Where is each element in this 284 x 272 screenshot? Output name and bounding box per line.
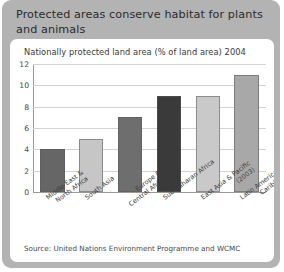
chart-subtitle: Nationally protected land area (% of lan… <box>24 47 246 57</box>
bar <box>118 117 142 192</box>
gridline <box>33 64 266 65</box>
bar <box>196 96 220 192</box>
y-tick-label: 12 <box>19 60 29 69</box>
y-tick-label: 6 <box>24 124 29 133</box>
gridline <box>33 128 266 129</box>
y-tick-label: 10 <box>19 81 29 90</box>
gridline <box>33 85 266 86</box>
gridline <box>33 107 266 108</box>
y-tick-label: 4 <box>24 145 29 154</box>
source-note: Source: United Nations Environment Progr… <box>24 244 240 253</box>
gridline <box>33 149 266 150</box>
y-tick-label: 8 <box>24 102 29 111</box>
y-tick-label: 0 <box>24 188 29 197</box>
card-title: Protected areas conserve habitat for pla… <box>16 7 268 37</box>
y-tick-label: 2 <box>24 166 29 175</box>
chart-panel: Nationally protected land area (% of lan… <box>10 39 274 262</box>
chart-card: Protected areas conserve habitat for pla… <box>2 0 280 268</box>
